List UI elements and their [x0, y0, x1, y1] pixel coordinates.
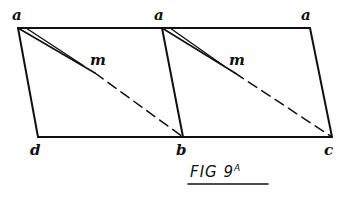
side-a-b [162, 28, 183, 137]
diagonal-right-upper-double [170, 28, 224, 66]
label-d: d [30, 143, 41, 158]
label-m-right: m [229, 53, 245, 68]
label-a-right: a [301, 8, 311, 23]
side-a-c [310, 28, 332, 137]
caption-superscript: A [234, 163, 241, 173]
caption-main: FIG 9 [190, 163, 234, 181]
label-c: c [324, 143, 333, 158]
label-a-mid: a [154, 8, 164, 23]
parallelogram-diagram [0, 0, 349, 197]
diagonal-left-upper-double [26, 28, 84, 66]
side-a-d [18, 28, 38, 137]
diagonal-left-dashed [95, 73, 183, 137]
label-b: b [176, 143, 187, 158]
figure-caption: FIG 9A [190, 163, 241, 181]
diagonal-right-dashed [235, 73, 332, 137]
label-a-left: a [12, 8, 22, 23]
label-m-left: m [90, 53, 106, 68]
